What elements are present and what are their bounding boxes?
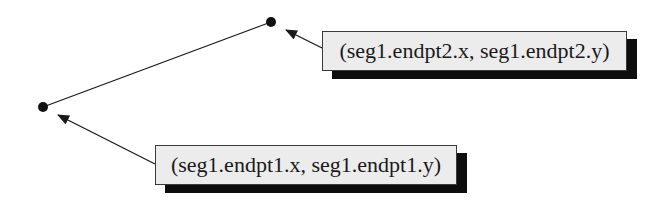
endpt1-label: (seg1.endpt1.x, seg1.endpt1.y) — [155, 145, 457, 185]
segment-line — [43, 22, 271, 107]
endpt2-arrow — [286, 30, 322, 48]
endpt2-dot — [266, 17, 276, 27]
endpt1-arrow — [58, 115, 155, 164]
endpt1-dot — [38, 102, 48, 112]
endpt2-label: (seg1.endpt2.x, seg1.endpt2.y) — [322, 31, 627, 71]
